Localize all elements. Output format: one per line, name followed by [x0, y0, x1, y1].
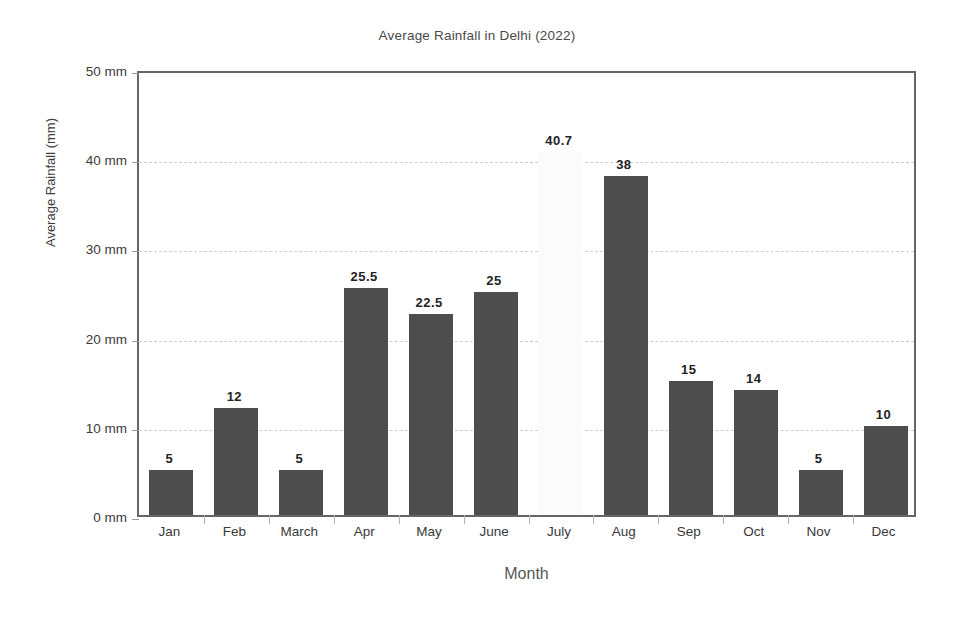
bar-value-label: 38 [616, 157, 631, 172]
y-tick-label: 20 mm [37, 331, 127, 346]
bar [669, 381, 713, 515]
x-axis-title: Month [137, 565, 916, 583]
x-tick-label: July [547, 524, 571, 539]
gridline [139, 251, 914, 252]
bar-value-label: 10 [876, 407, 891, 422]
bar-value-label: 25 [486, 273, 501, 288]
x-tick-label: Apr [354, 524, 375, 539]
x-tick-mark [334, 515, 335, 524]
bar [214, 408, 258, 515]
y-tick-mark [132, 251, 139, 252]
x-tick-label: Nov [807, 524, 831, 539]
bar-value-label: 15 [681, 362, 696, 377]
x-tick-mark [464, 515, 465, 524]
plot-area [137, 71, 916, 517]
y-tick-mark [132, 430, 139, 431]
x-tick-mark [788, 515, 789, 524]
x-tick-label: Aug [612, 524, 636, 539]
chart-title: Average Rainfall in Delhi (2022) [0, 28, 954, 43]
bar-value-label: 5 [815, 451, 823, 466]
y-tick-label: 40 mm [37, 153, 127, 168]
y-tick-mark [132, 519, 139, 520]
bar-value-label: 12 [227, 389, 242, 404]
y-tick-label: 10 mm [37, 420, 127, 435]
rainfall-bar-chart: Average Rainfall in Delhi (2022) Average… [0, 0, 954, 617]
bar [279, 470, 323, 515]
bar-value-label: 22.5 [415, 295, 442, 310]
bar [409, 314, 453, 515]
gridline [139, 341, 914, 342]
x-tick-label: Feb [223, 524, 246, 539]
y-tick-label: 0 mm [37, 510, 127, 525]
y-tick-mark [132, 162, 139, 163]
bar-value-label: 25.5 [351, 269, 378, 284]
x-tick-label: Dec [872, 524, 896, 539]
y-axis-title: Average Rainfall (mm) [43, 63, 58, 303]
gridline [139, 162, 914, 163]
bar-value-label: 5 [295, 451, 303, 466]
x-tick-label: Sep [677, 524, 701, 539]
x-tick-mark [593, 515, 594, 524]
y-tick-mark [132, 73, 139, 74]
bar [539, 152, 583, 515]
x-tick-mark [529, 515, 530, 524]
x-tick-mark [399, 515, 400, 524]
bar-value-label: 40.7 [545, 133, 572, 148]
x-tick-mark [723, 515, 724, 524]
bar [864, 426, 908, 515]
x-tick-label: Jan [159, 524, 181, 539]
x-tick-mark [204, 515, 205, 524]
y-tick-label: 50 mm [37, 64, 127, 79]
x-tick-label: March [281, 524, 319, 539]
bar [149, 470, 193, 515]
x-tick-mark [658, 515, 659, 524]
x-tick-mark [853, 515, 854, 524]
bar [344, 288, 388, 515]
bar [474, 292, 518, 515]
x-tick-mark [269, 515, 270, 524]
bar [799, 470, 843, 515]
x-tick-label: May [416, 524, 442, 539]
y-tick-label: 30 mm [37, 242, 127, 257]
bar-value-label: 5 [166, 451, 174, 466]
bar-value-label: 14 [746, 371, 761, 386]
x-tick-label: Oct [743, 524, 764, 539]
x-tick-label: June [479, 524, 508, 539]
y-tick-mark [132, 341, 139, 342]
bar [604, 176, 648, 515]
bar [734, 390, 778, 515]
